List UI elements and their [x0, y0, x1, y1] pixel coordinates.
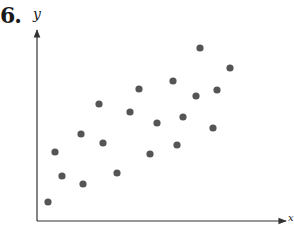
data-point — [126, 108, 133, 115]
data-point — [95, 100, 102, 107]
data-point — [179, 113, 186, 120]
data-point — [169, 77, 176, 84]
data-point — [99, 139, 106, 146]
data-point — [44, 198, 51, 205]
data-point — [135, 85, 142, 92]
data-point — [113, 169, 120, 176]
data-point — [79, 180, 86, 187]
data-point — [173, 141, 180, 148]
data-point — [51, 148, 58, 155]
scatter-plot — [0, 0, 294, 225]
data-points — [44, 44, 233, 205]
data-point — [58, 172, 65, 179]
data-point — [153, 119, 160, 126]
data-point — [77, 130, 84, 137]
data-point — [146, 150, 153, 157]
data-point — [196, 44, 203, 51]
data-point — [209, 124, 216, 131]
data-point — [213, 86, 220, 93]
data-point — [192, 92, 199, 99]
data-point — [226, 64, 233, 71]
